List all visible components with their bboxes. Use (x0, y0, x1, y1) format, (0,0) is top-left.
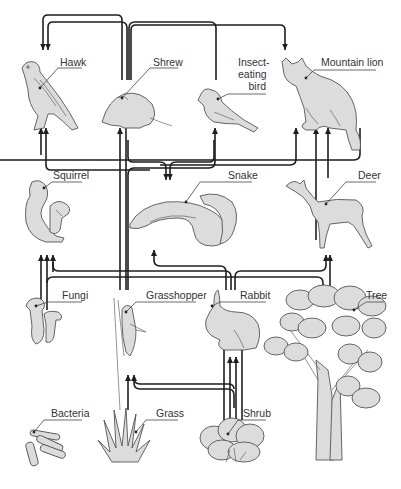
label-shrew: Shrew (153, 56, 183, 68)
mountain-lion-illustration (282, 58, 361, 150)
snake-illustration (130, 194, 237, 246)
arrow-grass-to-rabbit-h (134, 378, 234, 389)
label-insect-eating-bird-line3: bird (238, 80, 266, 92)
arrow-shrew-to-hawk (43, 15, 122, 80)
label-insect-eating-bird: Insect- eating bird (238, 56, 266, 92)
fungi-illustration (26, 298, 62, 344)
label-snake: Snake (228, 169, 258, 181)
label-insect-eating-bird-line1: Insect- (238, 56, 266, 68)
label-grass: Grass (156, 407, 184, 419)
label-tree: Tree (366, 289, 387, 301)
bacteria-illustration (25, 429, 66, 466)
label-shrub: Shrub (243, 407, 271, 419)
label-grasshopper: Grasshopper (146, 289, 207, 301)
deer-illustration (286, 180, 372, 248)
hawk-illustration (22, 62, 78, 130)
label-fungi: Fungi (62, 289, 88, 301)
arrow-rabbit-to-snake (154, 250, 226, 290)
label-squirrel: Squirrel (53, 169, 89, 181)
label-hawk: Hawk (60, 56, 86, 68)
insect-eating-bird-illustration (198, 89, 258, 132)
label-deer: Deer (358, 169, 381, 181)
squirrel-illustration (26, 181, 70, 242)
label-mountain-lion: Mountain lion (321, 56, 383, 68)
arrow-snake-right (0, 128, 360, 160)
label-rabbit: Rabbit (240, 289, 270, 301)
label-insect-eating-bird-line2: eating (238, 68, 266, 80)
shrew-illustration (102, 93, 172, 128)
label-bacteria: Bacteria (51, 407, 90, 419)
arrow-bird-to-hawk (48, 22, 127, 80)
arrow-rabbit-to-deer (235, 255, 326, 290)
arrow-shrub-to-grasshopper (134, 375, 234, 408)
grasshopper-illustration (114, 298, 146, 410)
tree-illustration (264, 285, 386, 460)
arrow-bird-top-link (129, 22, 216, 80)
shrub-illustration (200, 418, 264, 462)
grass-illustration (98, 408, 150, 462)
